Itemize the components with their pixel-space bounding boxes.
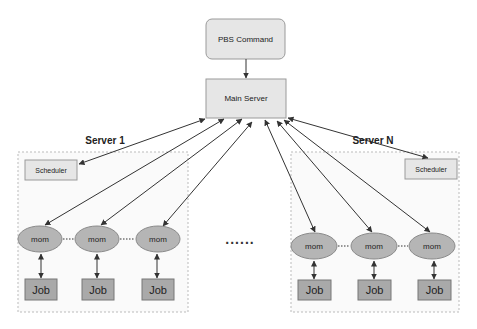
mom-label: mom (136, 226, 180, 252)
main-server-label: Main Server (206, 79, 286, 118)
more-servers-ellipsis: ...... (210, 232, 270, 246)
mom-label: mom (409, 233, 455, 259)
job-label: Job (298, 280, 331, 300)
job-label: Job (82, 279, 114, 300)
pbs-command-label: PBS Command (206, 19, 285, 59)
mom-label: mom (75, 226, 119, 252)
scheduler-label-server-n: Scheduler (405, 159, 457, 179)
mom-label: mom (351, 233, 397, 259)
job-label: Job (358, 280, 391, 300)
job-label: Job (142, 279, 174, 300)
server-1-label: Server 1 (75, 133, 135, 147)
scheduler-label-server-1: Scheduler (25, 160, 77, 180)
mom-label: mom (291, 233, 337, 259)
mom-label: mom (18, 226, 62, 252)
server-n-label: Server N (343, 133, 403, 147)
job-label: Job (418, 280, 451, 300)
job-label: Job (25, 279, 57, 300)
